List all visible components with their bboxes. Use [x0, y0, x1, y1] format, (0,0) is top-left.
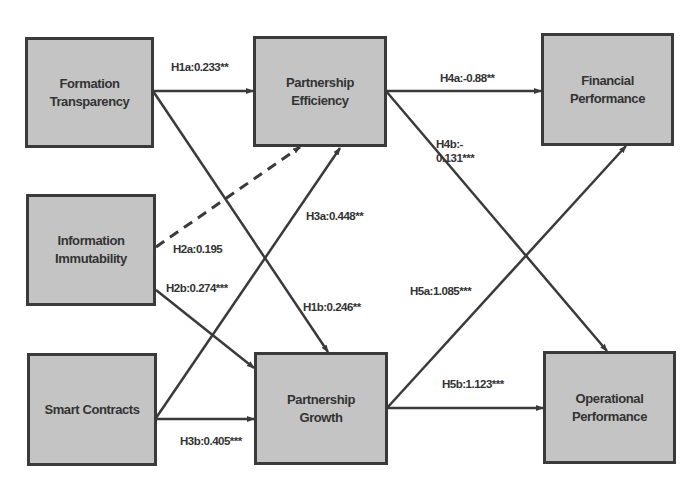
edge-label-h1a: H1a:0.233**	[171, 60, 228, 74]
node-information-immutability: InformationImmutability	[26, 194, 156, 306]
edge-h2a	[156, 147, 300, 247]
node-operational-performance: OperationalPerformance	[543, 351, 676, 464]
node-label-line1: Smart Contracts	[44, 401, 139, 419]
edge-label-h4b: H4b:- 0.131***	[436, 137, 474, 165]
edge-label-h5a: H5a:1.085***	[410, 284, 471, 298]
node-formation-transparency: FormationTransparency	[25, 37, 154, 148]
node-label-line1: Information	[55, 232, 127, 250]
node-partnership-efficiency: PartnershipEfficiency	[253, 36, 387, 147]
node-label-line2: Immutability	[55, 250, 127, 268]
node-label-line1: Financial	[570, 72, 645, 90]
node-smart-contracts: Smart Contracts	[27, 353, 157, 466]
edge-label-h3b: H3b:0.405***	[180, 434, 242, 448]
node-label-line2: Growth	[287, 409, 355, 427]
node-label-line2: Performance	[570, 90, 645, 108]
node-label-line1: Formation	[50, 75, 130, 93]
edge-label-h4b-line1: H4b:-	[436, 137, 474, 151]
edge-h2b	[156, 290, 254, 368]
node-label-line2: Transparency	[50, 93, 130, 111]
node-label-line1: Partnership	[287, 391, 355, 409]
node-financial-performance: FinancialPerformance	[541, 33, 674, 146]
edge-label-h1b: H1b:0.246**	[303, 300, 361, 314]
edge-label-h2b: H2b:0.274***	[166, 281, 228, 295]
node-label-line2: Efficiency	[286, 92, 354, 110]
node-partnership-growth: PartnershipGrowth	[254, 352, 388, 465]
node-label-line2: Performance	[572, 408, 647, 426]
edge-label-h3a: H3a:0.448**	[306, 209, 363, 223]
edge-label-h4b-line2: 0.131***	[436, 151, 474, 165]
node-label-line1: Operational	[572, 390, 647, 408]
edge-label-h5b: H5b:1.123***	[442, 377, 504, 391]
node-label-line1: Partnership	[286, 74, 354, 92]
edge-label-h2a: H2a:0.195	[173, 242, 222, 256]
edge-label-h4a: H4a:-0.88**	[440, 71, 495, 85]
